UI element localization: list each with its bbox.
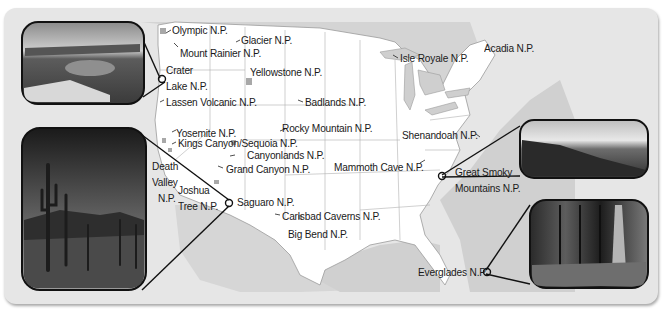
park-label-badlands: Badlands N.P. — [305, 96, 366, 109]
park-label-olympic: Olympic N.P. — [172, 24, 228, 37]
us-map — [0, 0, 668, 312]
park-label-acadia: Acadia N.P. — [484, 42, 534, 55]
crater-lake-photo — [22, 22, 144, 104]
park-label-joshua-tree-line1: Joshua — [178, 184, 210, 197]
park-label-death-valley-line1: Death — [152, 160, 178, 173]
park-label-great-smoky-line2: Mountains N.P. — [455, 182, 520, 195]
park-label-death-valley-line2: Valley — [152, 176, 178, 189]
park-label-grand-canyon: Grand Canyon N.P. — [226, 163, 310, 176]
park-label-glacier: Glacier N.P. — [241, 34, 292, 47]
park-label-rocky-mountain: Rocky Mountain N.P. — [282, 122, 372, 135]
park-label-saguaro: Saguaro N.P. — [237, 196, 294, 209]
great-smoky-photo — [520, 120, 648, 178]
park-label-crater-lake-line1: Crater — [166, 64, 193, 77]
park-label-everglades: Everglades N.P. — [418, 266, 487, 279]
park-label-mammoth-cave: Mammoth Cave N.P. — [334, 161, 424, 174]
park-label-mount-rainier: Mount Rainier N.P. — [180, 47, 261, 60]
park-label-lassen-volcanic: Lassen Volcanic N.P. — [166, 96, 257, 109]
park-label-joshua-tree-line2: Tree N.P. — [178, 200, 218, 213]
park-label-canyonlands: Canyonlands N.P. — [247, 149, 324, 162]
park-label-great-smoky-line1: Great Smoky — [455, 166, 512, 179]
park-label-carlsbad-caverns: Carlsbad Caverns N.P. — [282, 210, 380, 223]
everglades-photo — [530, 200, 648, 288]
park-label-isle-royale: Isle Royale N.P. — [400, 52, 468, 65]
park-label-death-valley-line3: N.P. — [158, 192, 176, 205]
park-label-big-bend: Big Bend N.P. — [288, 228, 348, 241]
saguaro-photo — [22, 128, 146, 290]
park-label-shenandoah: Shenandoah N.P. — [402, 129, 478, 142]
park-label-yellowstone: Yellowstone N.P. — [250, 66, 322, 79]
park-label-crater-lake-line2: Lake N.P. — [166, 80, 208, 93]
